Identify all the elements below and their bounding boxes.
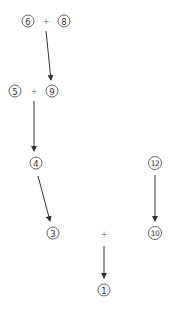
operators: +++ — [31, 17, 108, 239]
node-label: 5 — [12, 87, 17, 97]
node-label: 10 — [151, 229, 160, 238]
node-label: 9 — [49, 87, 54, 97]
node-label: 12 — [151, 159, 160, 168]
plus-operator: + — [101, 230, 108, 239]
edges — [34, 31, 155, 278]
arrow-op1-to-n9 — [46, 31, 51, 80]
node-1: 1 — [98, 284, 110, 296]
plus-icon: + — [31, 87, 38, 96]
node-label: 3 — [50, 229, 55, 239]
node-label: 8 — [61, 17, 66, 27]
node-label: 1 — [101, 286, 106, 296]
node-label: 4 — [33, 159, 38, 169]
nodes: 68594123101 — [9, 15, 162, 296]
node-12: 12 — [149, 157, 162, 170]
node-8: 8 — [58, 15, 70, 27]
node-6: 6 — [22, 15, 34, 27]
node-10: 10 — [149, 227, 162, 240]
arrow-n4-to-n3 — [38, 176, 50, 221]
node-3: 3 — [47, 227, 59, 239]
node-label: 6 — [25, 17, 30, 27]
node-4: 4 — [30, 157, 42, 169]
expression-tree-diagram: +++ 68594123101 — [0, 0, 173, 311]
plus-icon: + — [101, 230, 108, 239]
arrow-line — [46, 31, 51, 80]
node-5: 5 — [9, 85, 21, 97]
plus-operator: + — [43, 17, 50, 26]
node-9: 9 — [46, 85, 58, 97]
plus-operator: + — [31, 87, 38, 96]
arrow-line — [38, 176, 50, 221]
plus-icon: + — [43, 17, 50, 26]
